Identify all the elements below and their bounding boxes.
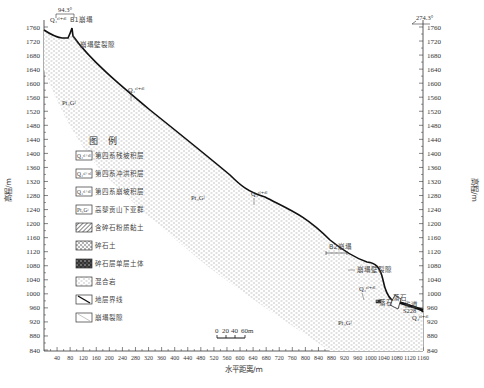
legend-item-boundary: 地层界线 bbox=[76, 295, 123, 304]
svg-text:Pt₃Gʲ: Pt₃Gʲ bbox=[77, 207, 88, 213]
y-tick-label: 1640 bbox=[26, 66, 41, 74]
x-tick-label: 1000 bbox=[365, 355, 377, 361]
label-b2-collapse: B2崩塌 bbox=[329, 242, 352, 251]
y-tick-label: 1480 bbox=[427, 122, 442, 130]
y-tick-label: 1200 bbox=[427, 220, 442, 228]
x-tick-label: 840 bbox=[314, 355, 323, 361]
x-tick-label: 480 bbox=[196, 355, 205, 361]
svg-text:Q₄ᵃˡ⁺ᵖˡ: Q₄ᵃˡ⁺ᵖˡ bbox=[77, 171, 91, 177]
label-road-id: S228 bbox=[403, 307, 416, 314]
x-tick-label: 920 bbox=[340, 355, 349, 361]
label-q-lower: Q₄ᶜˡ⁺ᵈˡ bbox=[359, 285, 376, 292]
y-tick-label: 1200 bbox=[26, 220, 41, 228]
svg-text:地层界线: 地层界线 bbox=[95, 295, 123, 304]
y-tick-label: 1560 bbox=[26, 94, 41, 102]
y-tick-label: 920 bbox=[30, 318, 41, 326]
svg-text:含碎石粉质黏土: 含碎石粉质黏土 bbox=[95, 223, 144, 232]
legend-item-migmatite: 混合岩 bbox=[76, 277, 116, 286]
y-tick-label: 1000 bbox=[26, 290, 41, 298]
y-axis-title-right: 高程/m bbox=[470, 178, 480, 202]
y-tick-label: 920 bbox=[427, 318, 438, 326]
x-tick-label: 760 bbox=[288, 355, 297, 361]
legend-item-gravel-soil: 碎石土 bbox=[76, 241, 116, 250]
x-tick-label: 1080 bbox=[391, 355, 403, 361]
svg-text:混合岩: 混合岩 bbox=[95, 277, 116, 286]
x-tick-label: 320 bbox=[144, 355, 153, 361]
x-tick-label: 1120 bbox=[404, 355, 416, 361]
y-tick-label: 1240 bbox=[26, 206, 41, 214]
legend-item-residual: Q₄ᶜˡ⁺ᵈˡ 第四系残坡积层 bbox=[76, 151, 144, 160]
y-tick-label: 1640 bbox=[427, 66, 442, 74]
y-tick-label: 960 bbox=[427, 304, 438, 312]
y-tick-label: 1760 bbox=[427, 24, 442, 32]
y-tick-label: 840 bbox=[30, 347, 41, 355]
label-bedrock-upper: Pt₃Gʲ bbox=[62, 99, 75, 106]
x-tick-label: 600 bbox=[236, 355, 245, 361]
y-tick-label: 1760 bbox=[26, 24, 41, 32]
svg-text:274.3°: 274.3° bbox=[416, 14, 434, 21]
y-tick-label: 1520 bbox=[26, 108, 41, 116]
legend-item-bedrock: Pt₃Gʲ 高黎贡山下亚群 bbox=[76, 205, 144, 214]
svg-text:60m: 60m bbox=[241, 327, 254, 335]
x-tick-label: 1040 bbox=[378, 355, 390, 361]
y-tick-label: 1160 bbox=[26, 234, 40, 242]
svg-text:图例: 图例 bbox=[89, 135, 127, 146]
y-tick-label: 1560 bbox=[427, 94, 442, 102]
y-tick-label: 1400 bbox=[427, 150, 442, 158]
y-tick-label: 1680 bbox=[427, 52, 442, 60]
x-tick-label: 200 bbox=[105, 355, 114, 361]
legend-item-colluvial: Q₄ᶜˡ⁺ᵈˡ 第四系崩坡积层 bbox=[76, 187, 144, 196]
x-tick-label: 440 bbox=[183, 355, 192, 361]
label-q-b1: Q₄ᶜˡ⁺ᵈˡ bbox=[50, 16, 67, 23]
x-tick-label: 80 bbox=[67, 355, 73, 361]
x-tick-label: 120 bbox=[79, 355, 88, 361]
svg-text:第四系冲洪积层: 第四系冲洪积层 bbox=[95, 169, 144, 178]
y-tick-label: 880 bbox=[30, 332, 41, 340]
svg-text:20: 20 bbox=[222, 327, 230, 335]
y-tick-label: 1040 bbox=[427, 276, 442, 284]
y-tick-label: 1120 bbox=[26, 248, 40, 256]
label-q-mid: Q₄ᶜˡ⁺ᵈˡ bbox=[251, 190, 268, 197]
y-tick-label: 1080 bbox=[26, 262, 41, 270]
x-tick-label: 1160 bbox=[417, 355, 429, 361]
label-bedrock-lower: Pt₃Gʲ bbox=[338, 319, 351, 326]
x-tick-label: 560 bbox=[222, 355, 231, 361]
svg-text:碎石层单层土体: 碎石层单层土体 bbox=[95, 259, 144, 268]
y-tick-label: 1600 bbox=[427, 80, 442, 88]
x-tick-label: 680 bbox=[262, 355, 271, 361]
label-b2-wall-fracture: 崩塌壁裂隙 bbox=[357, 265, 392, 274]
y-axis-title-left: 高程/m bbox=[3, 178, 13, 202]
x-tick-label: 520 bbox=[209, 355, 218, 361]
y-tick-label: 1720 bbox=[427, 38, 442, 46]
x-tick-label: 280 bbox=[131, 355, 140, 361]
svg-text:碎石土: 碎石土 bbox=[95, 241, 116, 250]
x-tick-label: 400 bbox=[170, 355, 179, 361]
label-b1-wall-fracture: 崩塌壁裂隙 bbox=[80, 40, 115, 49]
x-tick-label: 360 bbox=[157, 355, 166, 361]
y-tick-label: 1360 bbox=[427, 164, 442, 172]
x-tick-label: 960 bbox=[353, 355, 362, 361]
svg-text:Q₄ᶜˡ⁺ᵈˡ: Q₄ᶜˡ⁺ᵈˡ bbox=[77, 189, 91, 195]
y-tick-label: 1160 bbox=[427, 234, 441, 242]
svg-text:0: 0 bbox=[215, 327, 219, 335]
y-tick-label: 960 bbox=[30, 304, 41, 312]
y-tick-label: 1360 bbox=[26, 164, 41, 172]
y-tick-label: 1320 bbox=[26, 178, 41, 186]
svg-text:40: 40 bbox=[231, 327, 239, 335]
y-tick-label: 840 bbox=[427, 347, 438, 355]
x-tick-label: 40 bbox=[54, 355, 60, 361]
y-tick-label: 1080 bbox=[427, 262, 442, 270]
label-rockfall-1: 落石 bbox=[379, 298, 393, 307]
y-tick-label: 1280 bbox=[427, 192, 442, 200]
x-tick-label: 640 bbox=[249, 355, 258, 361]
svg-text:高黎贡山下亚群: 高黎贡山下亚群 bbox=[95, 205, 144, 214]
y-tick-label: 1480 bbox=[26, 122, 41, 130]
svg-text:Q₄ᶜˡ⁺ᵈˡ: Q₄ᶜˡ⁺ᵈˡ bbox=[77, 153, 91, 159]
y-tick-label: 1120 bbox=[427, 248, 441, 256]
y-tick-label: 1600 bbox=[26, 80, 41, 88]
legend-item-fracture: 崩塌裂隙 bbox=[76, 313, 123, 322]
y-tick-label: 1000 bbox=[427, 290, 442, 298]
y-tick-label: 1280 bbox=[26, 192, 41, 200]
y-tick-label: 1520 bbox=[427, 108, 442, 116]
y-tick-label: 1040 bbox=[26, 276, 41, 284]
